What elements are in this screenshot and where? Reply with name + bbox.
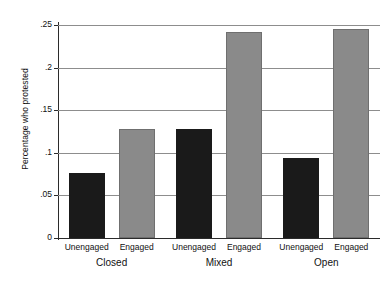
x-series-label-open-unengaged: Unengaged [275,242,327,253]
bar-open-engaged [333,29,369,238]
gridline-0.05 [58,195,380,196]
gridline-0.15 [58,110,380,111]
x-series-label-closed-unengaged: Unengaged [61,242,113,253]
bar-mixed-engaged [226,32,262,238]
x-axis-labels: UnengagedEngagedClosedUnengagedEngagedMi… [58,239,380,288]
bar-closed-unengaged [69,173,105,238]
y-tick-label-2: .1 [45,148,52,157]
x-group-label-closed: Closed [58,257,165,269]
gridline-0.2 [58,68,380,69]
bar-mixed-unengaged [176,129,212,238]
y-tick-label-4: .2 [45,63,52,72]
bar-chart: Percentage who protested 0 .05 .1 .15 .2… [0,0,385,288]
y-tick-label-5: .25 [40,20,52,29]
x-group-label-open: Open [273,257,380,269]
bar-closed-engaged [119,129,155,238]
y-axis-tick-labels: 0 .05 .1 .15 .2 .25 [30,0,52,288]
bar-open-unengaged [283,158,319,238]
y-tick-label-0: 0 [47,233,52,242]
y-tick-label-1: .05 [40,190,52,199]
x-group-label-mixed: Mixed [165,257,272,269]
x-series-label-open-engaged: Engaged [325,242,377,253]
x-series-label-closed-engaged: Engaged [111,242,163,253]
x-series-label-mixed-unengaged: Unengaged [168,242,220,253]
plot-area [58,25,380,238]
gridline-0.1 [58,153,380,154]
y-tick-label-3: .15 [40,105,52,114]
x-series-label-mixed-engaged: Engaged [218,242,270,253]
gridline-0.25 [58,25,380,26]
